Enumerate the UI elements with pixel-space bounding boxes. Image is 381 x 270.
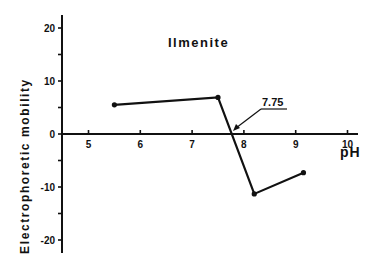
x-tick-label: 5: [86, 139, 92, 150]
data-point-marker: [301, 170, 306, 175]
x-tick-label: 8: [241, 139, 247, 150]
y-tick-label: 20: [44, 23, 56, 34]
annotation-label: 7.75: [262, 96, 283, 108]
y-tick-label: -10: [41, 182, 56, 193]
x-axis-title: pH: [340, 144, 361, 160]
x-tick-label: 7: [189, 139, 195, 150]
y-tick-label: 10: [44, 76, 56, 87]
y-axis-title: Electrophoretic mobility: [18, 78, 32, 254]
y-ticks: 20100-10-20: [41, 23, 62, 246]
chart-canvas: Electrophoretic mobility Ilmenite 567891…: [0, 0, 381, 270]
chart-title: Ilmenite: [168, 35, 229, 50]
y-tick-label: -20: [41, 235, 56, 246]
data-point-marker: [112, 102, 117, 107]
x-tick-label: 6: [138, 139, 144, 150]
isoelectric-point-annotation: 7.75: [233, 96, 287, 131]
data-point-marker: [252, 191, 257, 196]
x-tick-label: 9: [293, 139, 299, 150]
data-point-marker: [215, 95, 220, 100]
annotation-arrow-line: [236, 109, 261, 128]
y-tick-label: 0: [49, 129, 55, 140]
